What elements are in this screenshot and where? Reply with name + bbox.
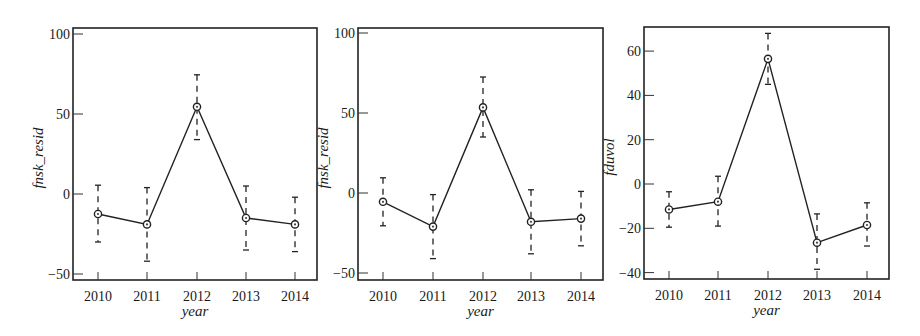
data-point-center: [294, 223, 296, 225]
x-tick-label: 2013: [803, 288, 831, 303]
y-tick-label: 50: [341, 106, 355, 121]
y-tick-label: 50: [56, 107, 70, 122]
x-axis-title: year: [465, 303, 494, 319]
y-tick-label: 40: [627, 88, 641, 103]
y-axis-title: fnsk_resid: [30, 127, 46, 189]
y-tick-label: 20: [627, 133, 641, 148]
series-line: [669, 59, 867, 243]
x-tick-label: 2012: [183, 289, 211, 304]
x-tick-label: 2012: [469, 289, 497, 304]
x-tick-label: 2014: [853, 288, 881, 303]
data-point-center: [767, 58, 769, 60]
y-tick-label: −40: [619, 266, 641, 281]
y-tick-label: 100: [334, 26, 355, 41]
x-tick-label: 2010: [655, 288, 683, 303]
data-point-center: [530, 221, 532, 223]
y-tick-label: 0: [634, 177, 641, 192]
x-tick-label: 2011: [133, 289, 160, 304]
figure: −5005010020102011201220132014yearfnsk_re…: [0, 0, 920, 336]
y-tick-label: 0: [348, 186, 355, 201]
x-tick-label: 2014: [567, 289, 595, 304]
x-tick-label: 2012: [754, 288, 782, 303]
y-tick-label: −50: [48, 267, 70, 282]
chart-panel-left: −5005010020102011201220132014yearfnsk_re…: [30, 27, 317, 319]
data-point-center: [482, 106, 484, 108]
x-tick-label: 2011: [704, 288, 731, 303]
series-line: [383, 107, 581, 226]
data-point-center: [97, 213, 99, 215]
x-tick-label: 2010: [369, 289, 397, 304]
plot-frame: [73, 28, 317, 280]
x-tick-label: 2014: [281, 289, 309, 304]
data-point-center: [146, 223, 148, 225]
chart-panel-middle: −5005010020102011201220132014yearfnsk_re…: [315, 26, 603, 319]
y-axis-title: fnsk_resid: [315, 127, 331, 189]
data-point-center: [382, 201, 384, 203]
data-point-center: [668, 208, 670, 210]
chart-panel-right: −40−20020406020102011201220132014yearfdu…: [601, 27, 889, 318]
data-point-center: [432, 226, 434, 228]
x-tick-label: 2010: [84, 289, 112, 304]
x-axis-title: year: [180, 303, 209, 319]
data-point-center: [196, 106, 198, 108]
plot-frame: [358, 28, 603, 280]
data-point-center: [580, 218, 582, 220]
x-axis-title: year: [751, 302, 780, 318]
data-point-center: [717, 201, 719, 203]
x-tick-label: 2011: [419, 289, 446, 304]
x-tick-label: 2013: [232, 289, 260, 304]
x-tick-label: 2013: [517, 289, 545, 304]
y-tick-label: 60: [627, 44, 641, 59]
y-tick-label: −20: [619, 221, 641, 236]
y-tick-label: 0: [63, 187, 70, 202]
y-axis-title: fduvol: [601, 138, 617, 176]
y-tick-label: 100: [49, 27, 70, 42]
data-point-center: [866, 224, 868, 226]
data-point-center: [245, 217, 247, 219]
y-tick-label: −50: [333, 266, 355, 281]
data-point-center: [816, 242, 818, 244]
